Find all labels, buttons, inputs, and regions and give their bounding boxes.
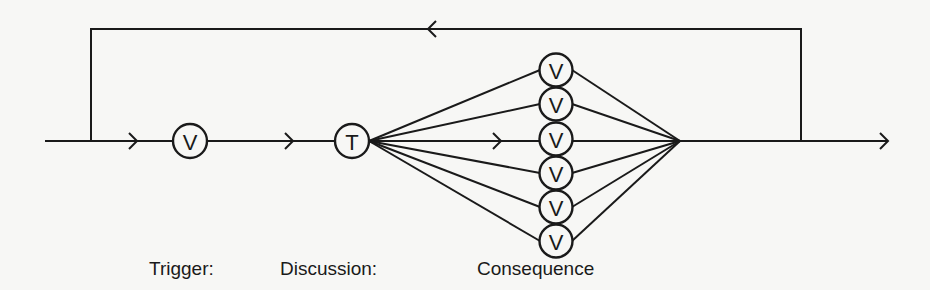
node-v-consequence-1: V xyxy=(540,54,573,87)
svg-text:V: V xyxy=(549,128,564,153)
fan-lines xyxy=(369,70,680,241)
node-v-consequence-6: V xyxy=(540,225,573,258)
node-v-trigger: V xyxy=(173,124,207,158)
caption-consequence: Consequence xyxy=(477,258,594,280)
node-v-consequence-3: V xyxy=(540,123,573,156)
feedback-loop xyxy=(91,21,801,141)
main-line xyxy=(45,133,888,149)
svg-text:V: V xyxy=(549,196,564,221)
node-v-consequence-5: V xyxy=(540,191,573,224)
svg-text:V: V xyxy=(549,162,564,187)
svg-text:V: V xyxy=(549,93,564,118)
svg-text:T: T xyxy=(345,130,358,155)
svg-text:V: V xyxy=(183,130,198,155)
node-v-consequence-4: V xyxy=(540,157,573,190)
svg-text:V: V xyxy=(549,230,564,255)
node-v-consequence-2: V xyxy=(540,88,573,121)
svg-text:V: V xyxy=(549,59,564,84)
diagram-canvas: V T V V V V V V xyxy=(0,0,930,290)
caption-trigger: Trigger: xyxy=(149,258,214,280)
flow-diagram: V T V V V V V V Trigger: D xyxy=(0,0,930,290)
node-t-discussion: T xyxy=(335,124,369,158)
caption-discussion: Discussion: xyxy=(280,258,377,280)
